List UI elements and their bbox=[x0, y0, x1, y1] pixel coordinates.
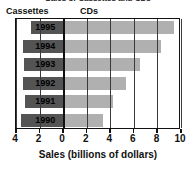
x-tick-label: 4 bbox=[99, 132, 119, 145]
x-tick-label: 2 bbox=[29, 132, 49, 145]
bar-year-label: 1992 bbox=[27, 77, 63, 90]
plot-area: 199519941993199219911990 bbox=[15, 18, 180, 129]
bar-year-label: 1995 bbox=[27, 21, 63, 34]
bar-cds bbox=[63, 77, 125, 90]
legend-item-cds: CDs bbox=[80, 5, 98, 17]
bar-year-label: 1991 bbox=[27, 95, 63, 108]
bar-year-label: 1994 bbox=[27, 40, 63, 53]
x-tick-label: 8 bbox=[146, 132, 166, 145]
x-axis-tick-labels: 420246810 bbox=[0, 132, 196, 145]
x-tick-label: 6 bbox=[123, 132, 143, 145]
x-tick-label: 4 bbox=[5, 132, 25, 145]
bar-year-label: 1990 bbox=[27, 114, 63, 127]
x-tick-label: 0 bbox=[52, 132, 72, 145]
chart-legend: Cassettes CDs bbox=[0, 5, 196, 17]
bar-year-label: 1993 bbox=[27, 58, 63, 71]
gridline bbox=[110, 19, 111, 128]
gridline bbox=[40, 19, 41, 128]
x-tick-label: 2 bbox=[76, 132, 96, 145]
bar-chart-figure: Sales of Cassettes and CDs Cassettes CDs… bbox=[0, 0, 196, 169]
legend-item-cassettes: Cassettes bbox=[6, 5, 49, 17]
gridline bbox=[134, 19, 135, 128]
gridline bbox=[16, 19, 17, 128]
x-axis-label: Sales (billions of dollars) bbox=[0, 148, 196, 162]
gridline bbox=[87, 19, 88, 128]
bar-cds bbox=[63, 58, 140, 71]
gridline bbox=[181, 19, 182, 128]
x-tick-label: 10 bbox=[170, 132, 190, 145]
bar-cds bbox=[63, 95, 113, 108]
chart-title: Sales of Cassettes and CDs bbox=[0, 0, 196, 1]
bar-cds bbox=[63, 114, 103, 127]
gridline bbox=[157, 19, 158, 128]
zero-axis-line bbox=[63, 19, 65, 128]
bar-cds bbox=[63, 40, 161, 53]
